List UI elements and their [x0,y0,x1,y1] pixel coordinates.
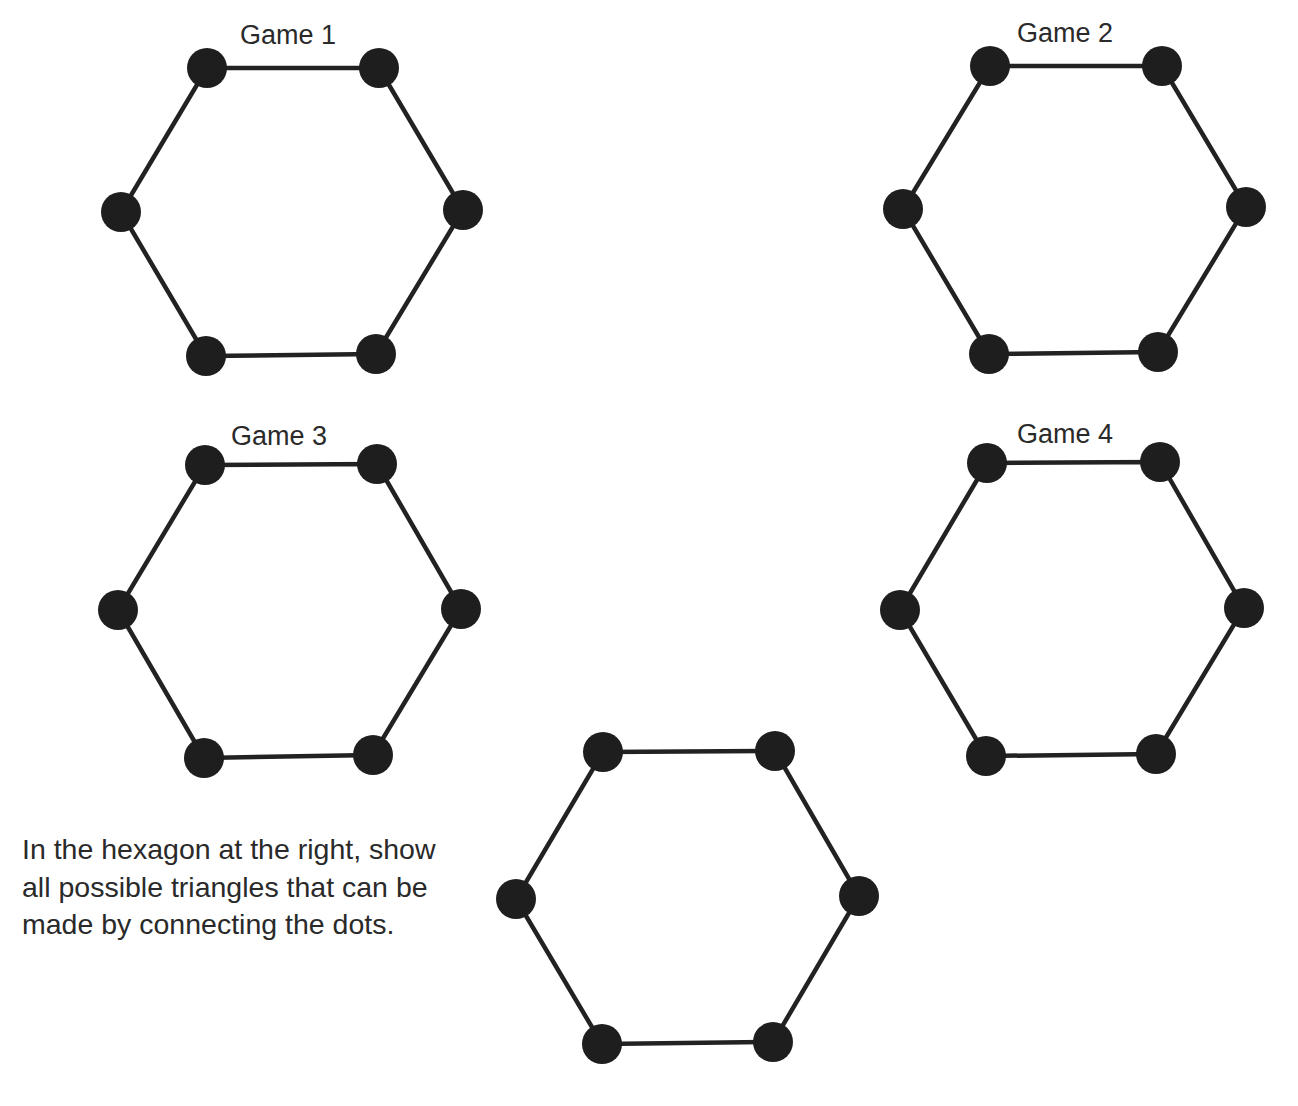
vertex-dot-5[interactable] [184,738,224,778]
vertex-dot-3[interactable] [1224,588,1264,628]
vertex-dot-3[interactable] [839,876,879,916]
vertex-dot-4[interactable] [753,1022,793,1062]
hexagon-game-1[interactable] [101,48,483,376]
hexagon-game-2[interactable] [883,46,1266,374]
hexagon-outline [121,68,463,356]
hexagon-outline [900,462,1244,756]
vertex-dot-6[interactable] [880,590,920,630]
vertex-dot-3[interactable] [441,589,481,629]
instructions-line-3: made by connecting the dots. [22,906,502,944]
vertex-dot-1[interactable] [187,48,227,88]
vertex-dot-5[interactable] [966,736,1006,776]
vertex-dot-1[interactable] [185,445,225,485]
game-2-label: Game 2 [1017,20,1113,47]
vertex-dot-5[interactable] [582,1024,622,1064]
vertex-dot-4[interactable] [356,334,396,374]
vertex-dot-4[interactable] [1136,734,1176,774]
vertex-dot-2[interactable] [755,731,795,771]
vertex-dot-5[interactable] [186,336,226,376]
hexagon-outline [118,464,461,758]
vertex-dot-1[interactable] [583,732,623,772]
vertex-dot-2[interactable] [1142,46,1182,86]
vertex-dot-4[interactable] [353,735,393,775]
vertex-dot-2[interactable] [357,444,397,484]
vertex-dot-6[interactable] [101,192,141,232]
vertex-dot-3[interactable] [443,190,483,230]
vertex-dot-6[interactable] [98,590,138,630]
vertex-dot-2[interactable] [359,48,399,88]
game-1-label: Game 1 [240,22,336,49]
vertex-dot-6[interactable] [496,879,536,919]
instructions-line-2: all possible triangles that can be [22,869,502,907]
hexagon-practice[interactable] [496,731,879,1064]
vertex-dot-5[interactable] [969,334,1009,374]
vertex-dot-2[interactable] [1140,442,1180,482]
hexagon-game-3[interactable] [98,444,481,778]
game-4-label: Game 4 [1017,421,1113,448]
hexagon-outline [516,751,859,1044]
game-3-label: Game 3 [231,423,327,450]
vertex-dot-1[interactable] [967,443,1007,483]
instructions-text: In the hexagon at the right, show all po… [22,831,502,944]
hexagon-outline [903,66,1246,354]
vertex-dot-3[interactable] [1226,187,1266,227]
instructions-line-1: In the hexagon at the right, show [22,831,502,869]
hexagon-game-4[interactable] [880,442,1264,776]
vertex-dot-1[interactable] [970,46,1010,86]
vertex-dot-6[interactable] [883,189,923,229]
vertex-dot-4[interactable] [1138,332,1178,372]
